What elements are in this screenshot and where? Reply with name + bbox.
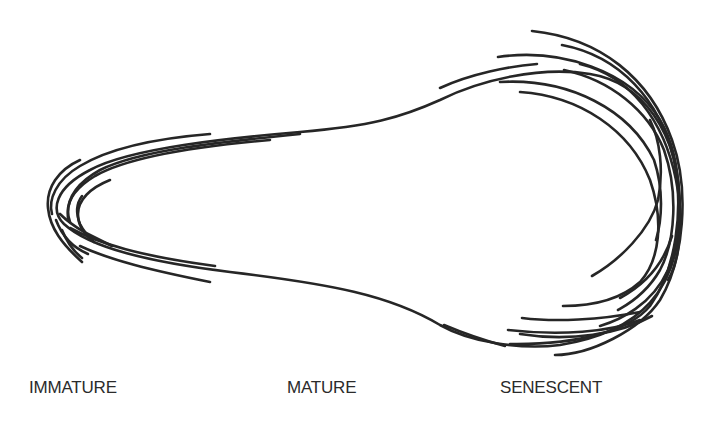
immature-arc-8 <box>70 228 215 266</box>
immature-arc-9 <box>80 246 210 282</box>
immature-arc-1 <box>51 134 210 214</box>
stage-label-mature: MATURE <box>287 378 356 398</box>
outline-diagram <box>0 0 717 430</box>
senescent-arc-7 <box>500 82 661 240</box>
senescent-arc-10 <box>522 312 640 320</box>
stage-label-immature: IMMATURE <box>29 378 117 398</box>
immature-arc-2 <box>68 140 270 222</box>
stage-label-senescent: SENESCENT <box>500 378 602 398</box>
senescent-arc-11 <box>508 320 640 333</box>
senescent-arc-6 <box>520 92 658 306</box>
senescent-arc-4 <box>440 64 537 88</box>
senescent-arc-12 <box>444 325 505 346</box>
immature-arc-3 <box>68 134 300 218</box>
